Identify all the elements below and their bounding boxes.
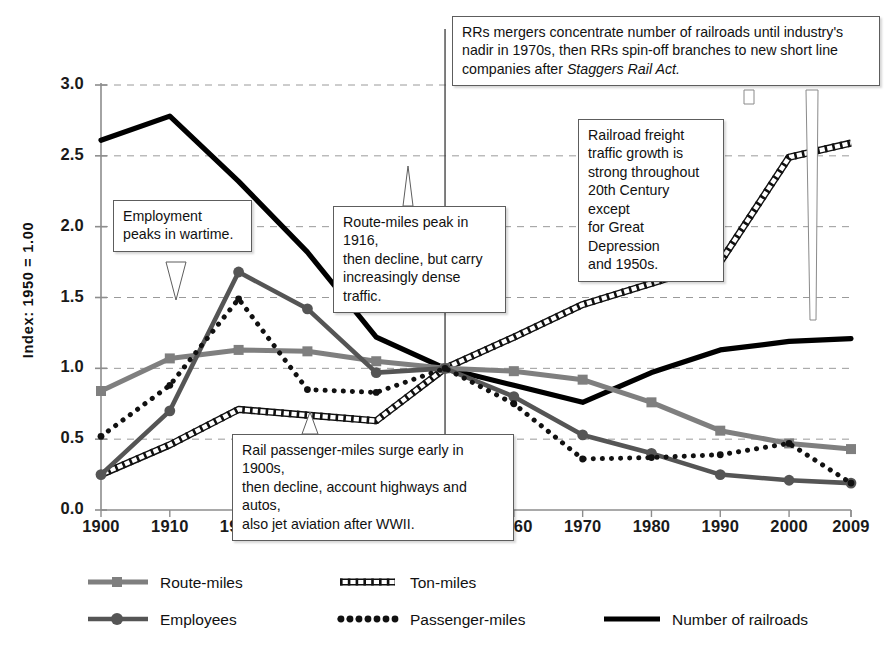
annotation-line: Railroad freight — [588, 127, 684, 143]
annotation-route-miles-peak: Route-miles peak in 1916, then decline, … — [333, 206, 506, 313]
annotation-line: 20th Century except — [588, 182, 669, 216]
annotation-line: companies after — [462, 61, 567, 77]
annotation-line: Rail passenger-miles surge early in 1900… — [242, 442, 464, 476]
annotation-line: peaks in wartime. — [123, 226, 233, 242]
chart-container: Index: 1950 = 1.00 0.00.51.01.52.02.53.0… — [0, 0, 896, 646]
annotation-italic: Staggers Rail Act. — [567, 61, 680, 77]
annotation-line: Employment — [123, 208, 202, 224]
callout-leaders — [0, 0, 896, 646]
annotation-line: and 1950s. — [588, 256, 658, 272]
annotation-line: nadir in 1970s, then RRs spin-off branch… — [462, 42, 838, 58]
annotation-line: then decline, but carry — [343, 251, 483, 267]
annotation-line: RRs mergers concentrate number of railro… — [462, 24, 843, 40]
annotation-line: traffic growth is — [588, 145, 683, 161]
chart-legend: Route-miles Ton-miles Employees Passenge… — [0, 572, 896, 646]
annotation-line: Route-miles peak in 1916, — [343, 214, 468, 248]
annotation-freight-growth: Railroad freight traffic growth is stron… — [578, 119, 724, 282]
annotation-railroads-mergers: RRs mergers concentrate number of railro… — [452, 16, 880, 86]
annotation-line: also jet aviation after WWII. — [242, 516, 415, 532]
legend-label-passenger-miles[interactable]: Passenger-miles — [410, 611, 525, 629]
annotation-passenger-miles: Rail passenger-miles surge early in 1900… — [232, 434, 514, 541]
annotation-employment-peaks: Employment peaks in wartime. — [113, 200, 252, 252]
annotation-line: increasingly dense traffic. — [343, 269, 461, 303]
legend-label-ton-miles[interactable]: Ton-miles — [410, 574, 476, 592]
legend-label-number-of-railroads[interactable]: Number of railroads — [672, 611, 808, 629]
legend-label-employees[interactable]: Employees — [160, 611, 237, 629]
annotation-line: strong throughout — [588, 164, 699, 180]
annotation-line: for Great Depression — [588, 219, 660, 253]
legend-label-route-miles[interactable]: Route-miles — [160, 574, 243, 592]
annotation-line: then decline, account highways and autos… — [242, 479, 467, 513]
